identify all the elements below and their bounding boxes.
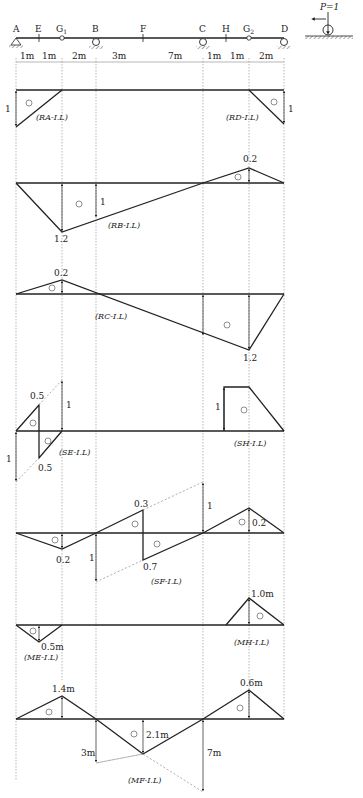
svg-text:1: 1: [215, 402, 221, 412]
se-il-label: (SE-I.L): [59, 448, 90, 457]
roller-support-c-icon: [196, 39, 210, 50]
mf-il-label: (MF-I.L): [128, 776, 161, 785]
svg-text:1: 1: [207, 501, 213, 511]
dashed-construction-lines: [16, 380, 203, 792]
sh-il-label: (SH-I.L): [234, 439, 266, 448]
label-h: H: [222, 24, 230, 34]
span-a-e: 1m: [20, 51, 35, 61]
label-g1: G1: [56, 24, 67, 35]
il-rb: [16, 168, 284, 232]
span-e-g1: 1m: [42, 51, 57, 61]
span-g1-b: 2m: [72, 51, 87, 61]
hinge-g1-icon: [60, 36, 64, 40]
unit-load-legend: P=1: [305, 2, 353, 39]
svg-text:1: 1: [288, 104, 294, 114]
il-labels: 1 1 (RA-I.L) (RD-I.L) 1 1.2 0.2 (RB-I.L)…: [5, 104, 294, 785]
label-d: D: [281, 24, 288, 34]
me-il-label: (ME-I.L): [24, 653, 58, 662]
dimension-line: 1m 1m 2m 3m 7m 1m 1m 2m: [16, 51, 284, 62]
svg-text:1: 1: [66, 400, 72, 410]
label-c: C: [199, 24, 206, 34]
svg-text:1.4m: 1.4m: [52, 684, 75, 694]
svg-text:0.5m: 0.5m: [41, 642, 64, 652]
svg-text:1.0m: 1.0m: [251, 589, 274, 599]
label-g2: G2: [243, 24, 254, 35]
svg-text:0.7: 0.7: [143, 562, 158, 572]
beam: A E G1 B F C H G2 D: [9, 24, 291, 49]
svg-text:1.2: 1.2: [54, 234, 68, 244]
svg-text:0.5: 0.5: [38, 463, 53, 473]
rb-il-label: (RB-I.L): [108, 221, 140, 230]
rd-il-label: (RD-I.L): [226, 113, 259, 122]
svg-text:1: 1: [6, 454, 12, 464]
label-e: E: [35, 24, 42, 34]
span-h-g2: 1m: [230, 51, 245, 61]
roller-support-d-icon: [277, 39, 291, 50]
il-mf: [16, 690, 284, 754]
mh-il-label: (MH-I.L): [234, 638, 269, 647]
svg-text:1.2: 1.2: [243, 353, 257, 363]
span-g2-d: 2m: [259, 51, 274, 61]
svg-text:0.2: 0.2: [243, 154, 257, 164]
roller-support-b-icon: [89, 39, 103, 50]
il-rc: [16, 280, 284, 350]
influence-line-diagram: A E G1 B F C H G2 D 1m 1m 2m 3m 7m 1m 1m…: [0, 0, 363, 798]
svg-text:7m: 7m: [207, 748, 222, 758]
guide-lines: [16, 58, 284, 780]
svg-text:P=1: P=1: [319, 2, 339, 12]
span-c-h: 1m: [207, 51, 222, 61]
sf-il-label: (SF-I.L): [151, 577, 182, 586]
svg-text:0.5: 0.5: [30, 391, 45, 401]
svg-text:1: 1: [100, 197, 106, 207]
svg-text:0.2: 0.2: [56, 555, 70, 565]
svg-text:1: 1: [5, 104, 11, 114]
svg-text:0.6m: 0.6m: [240, 678, 263, 688]
label-f: F: [140, 24, 146, 34]
ra-il-label: (RA-I.L): [36, 113, 68, 122]
pin-support-a-icon: [9, 38, 23, 48]
svg-text:2.1m: 2.1m: [146, 730, 169, 740]
label-b: B: [92, 24, 99, 34]
svg-text:1: 1: [89, 553, 95, 563]
label-a: A: [12, 24, 20, 34]
span-b-f: 3m: [112, 51, 127, 61]
svg-text:0.2: 0.2: [252, 518, 266, 528]
svg-text:0.3: 0.3: [134, 499, 149, 509]
il-me-mh: [16, 598, 284, 642]
svg-text:0.2: 0.2: [54, 268, 68, 278]
rc-il-label: (RC-I.L): [95, 312, 127, 321]
svg-text:3m: 3m: [81, 748, 96, 758]
il-sf: [16, 508, 284, 560]
span-f-c: 7m: [168, 51, 183, 61]
hinge-g2-icon: [247, 36, 251, 40]
